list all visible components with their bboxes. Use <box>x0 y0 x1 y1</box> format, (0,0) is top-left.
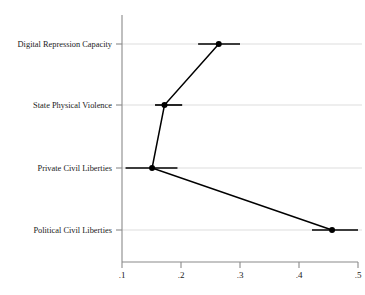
x-tick-label-1: .2 <box>178 270 185 280</box>
x-tick-label-0: .1 <box>119 270 126 280</box>
y-label-political-civil-liberties: Political Civil Liberties <box>33 226 112 235</box>
y-label-state-physical-violence: State Physical Violence <box>33 101 112 110</box>
x-axis-tick-labels: .1 .2 .3 .4 .5 <box>119 270 362 280</box>
estimate-point-marker <box>329 227 335 233</box>
estimate-point-marker <box>149 165 155 171</box>
x-axis <box>122 262 358 268</box>
x-tick-label-2: .3 <box>237 270 244 280</box>
x-tick-label-4: .5 <box>355 270 362 280</box>
y-label-private-civil-liberties: Private Civil Liberties <box>38 164 112 173</box>
estimate-connector-line <box>152 44 332 230</box>
y-label-digital-repression-capacity: Digital Repression Capacity <box>18 40 113 49</box>
coefficient-plot: Digital Repression Capacity State Physic… <box>0 0 365 295</box>
estimate-point-marker <box>161 102 167 108</box>
series-layer <box>126 41 358 233</box>
x-tick-label-3: .4 <box>296 270 303 280</box>
plot-svg: Digital Repression Capacity State Physic… <box>0 0 365 295</box>
y-axis-labels: Digital Repression Capacity State Physic… <box>18 40 113 235</box>
y-axis <box>116 15 122 262</box>
estimate-point-marker <box>216 41 222 47</box>
